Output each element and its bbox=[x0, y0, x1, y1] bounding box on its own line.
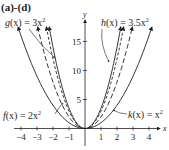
x-tick-label: −4 bbox=[16, 132, 26, 142]
label-g: g(x) = 3x2 bbox=[5, 17, 45, 29]
pointer-k bbox=[113, 110, 127, 114]
x-tick-label: −1 bbox=[64, 132, 74, 142]
pointer-f bbox=[55, 103, 63, 114]
x-tick-label: −3 bbox=[32, 132, 42, 142]
y-axis-label: y bbox=[82, 10, 87, 19]
label-k: k(x) = x2 bbox=[128, 109, 163, 121]
label-f: f(x) = 2x2 bbox=[3, 110, 41, 122]
y-tick-label: 5 bbox=[77, 95, 82, 105]
pointer-h bbox=[102, 29, 109, 62]
x-tick-label: 3 bbox=[131, 132, 136, 142]
y-axis: y bbox=[82, 10, 87, 146]
y-tick-label: 10 bbox=[72, 66, 82, 76]
x-tick-label: −2 bbox=[48, 132, 58, 142]
x-tick-label: 2 bbox=[115, 132, 120, 142]
x-axis-label: x bbox=[162, 124, 167, 133]
part-label: (a)-(d) bbox=[1, 1, 31, 14]
x-tick-label: 1 bbox=[99, 132, 104, 142]
label-h: h(x) = 3.5x2 bbox=[101, 17, 149, 29]
parabola-family-chart: (a)-(d) x y −4−3−2−11234 51015 g(x) = 3x… bbox=[0, 0, 169, 150]
x-tick-label: 4 bbox=[147, 132, 152, 142]
y-tick-label: 15 bbox=[72, 37, 82, 47]
